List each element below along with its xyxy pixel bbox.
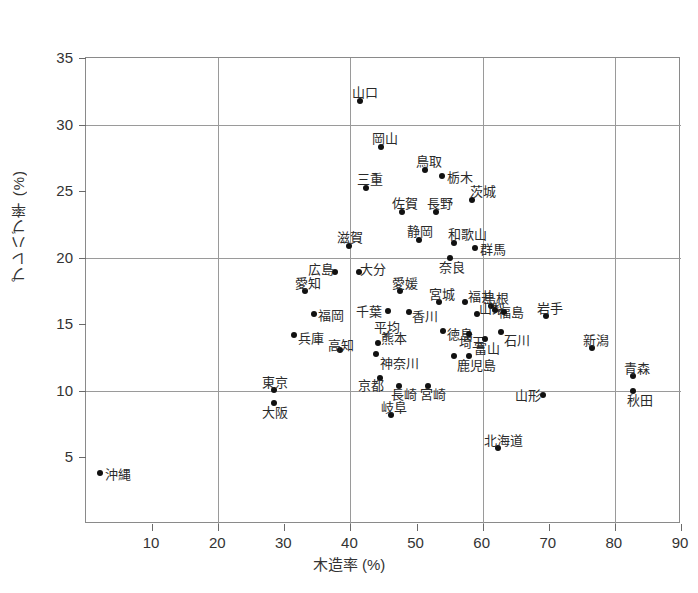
point-label: 山形 [515, 389, 541, 402]
tick-x [284, 524, 285, 531]
point-label: 秋田 [627, 394, 653, 407]
y-tick-label: 15 [33, 316, 73, 331]
plot-area: 山口岡山鳥取栃木三重佐賀長野茨城和歌山静岡滋賀群馬奈良広島大分愛知愛媛宮城福井島… [85, 57, 680, 523]
gridline-horizontal [86, 125, 681, 126]
data-point [472, 245, 478, 251]
scatter-chart: プレハブ率 (%) 木造率 (%) 山口岡山鳥取栃木三重佐賀長野茨城和歌山静岡滋… [0, 0, 698, 593]
point-label: 福岡 [318, 309, 344, 322]
point-label: 滋賀 [337, 231, 363, 244]
x-tick-label: 30 [263, 535, 303, 550]
data-point [466, 353, 472, 359]
x-tick-label: 40 [329, 535, 369, 550]
x-tick-label: 80 [594, 535, 634, 550]
tick-y [79, 191, 86, 192]
point-label: 長野 [427, 197, 453, 210]
x-tick-label: 70 [528, 535, 568, 550]
point-label: 奈良 [439, 261, 465, 274]
point-label: 岩手 [537, 302, 563, 315]
tick-x [152, 524, 153, 531]
y-tick-label: 25 [33, 183, 73, 198]
point-label: 新潟 [583, 334, 609, 347]
point-label: 神奈川 [380, 357, 419, 370]
y-tick-label: 30 [33, 117, 73, 132]
point-label: 香川 [412, 310, 438, 323]
tick-y [79, 58, 86, 59]
gridline-horizontal [86, 258, 681, 259]
point-label: 鳥取 [416, 155, 442, 168]
data-point [311, 311, 317, 317]
point-label: 鹿児島 [457, 359, 496, 372]
x-tick-label: 60 [462, 535, 502, 550]
x-tick-label: 50 [396, 535, 436, 550]
point-label: 宮城 [429, 288, 455, 301]
tick-x [483, 524, 484, 531]
point-label: 山口 [352, 86, 378, 99]
point-label: 北海道 [484, 434, 523, 447]
tick-y [79, 125, 86, 126]
data-point [440, 328, 446, 334]
point-label: 兵庫 [298, 332, 324, 345]
data-point [97, 470, 103, 476]
point-label: 大阪 [262, 406, 288, 419]
x-axis-title: 木造率 (%) [0, 553, 698, 574]
point-label: 和歌山 [448, 228, 487, 241]
y-tick-label: 5 [33, 449, 73, 464]
point-label: 愛媛 [392, 277, 418, 290]
x-tick-label: 20 [197, 535, 237, 550]
tick-y [79, 457, 86, 458]
tick-x [681, 524, 682, 531]
data-point [373, 351, 379, 357]
data-point [385, 308, 391, 314]
gridline-vertical [615, 58, 616, 524]
point-label: 三重 [357, 173, 383, 186]
tick-y [79, 391, 86, 392]
point-label: 高知 [328, 339, 354, 352]
y-axis-title: プレハブ率 (%) [8, 170, 34, 282]
x-tick-label: 10 [131, 535, 171, 550]
point-label: 岐阜 [381, 401, 407, 414]
x-tick-label: 90 [660, 535, 698, 550]
point-label: 栃木 [447, 171, 473, 184]
data-point [439, 173, 445, 179]
y-tick-label: 10 [33, 383, 73, 398]
point-label: 茨城 [470, 185, 496, 198]
point-label: 長崎 [391, 388, 417, 401]
point-label: 京都 [358, 379, 384, 392]
tick-y [79, 324, 86, 325]
tick-x [417, 524, 418, 531]
point-label: 愛知 [295, 277, 321, 290]
y-tick-label: 35 [33, 50, 73, 65]
gridline-vertical [218, 58, 219, 524]
tick-y [79, 258, 86, 259]
data-point [291, 332, 297, 338]
point-label: 石川 [504, 334, 530, 347]
point-label: 岡山 [372, 132, 398, 145]
point-label: 東京 [262, 376, 288, 389]
point-label: 熊本 [381, 332, 407, 345]
tick-x [615, 524, 616, 531]
gridline-vertical [350, 58, 351, 524]
point-label: 群馬 [480, 243, 506, 256]
point-label: 千葉 [356, 305, 382, 318]
point-label: 静岡 [407, 225, 433, 238]
y-tick-label: 20 [33, 250, 73, 265]
point-label: 沖縄 [105, 468, 131, 481]
point-label: 佐賀 [392, 197, 418, 210]
point-label: 富山 [474, 342, 500, 355]
point-label: 広島 [308, 263, 334, 276]
point-label: 青森 [624, 362, 650, 375]
tick-x [549, 524, 550, 531]
tick-x [218, 524, 219, 531]
point-label: 宮崎 [420, 388, 446, 401]
tick-x [350, 524, 351, 531]
point-label: 大分 [360, 263, 386, 276]
